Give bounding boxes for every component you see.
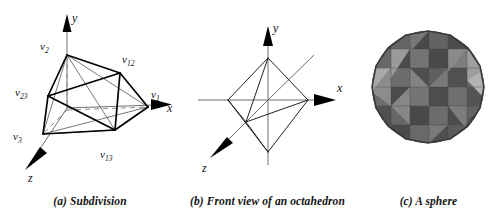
panel-sphere: (c) A sphere bbox=[355, 0, 502, 221]
axis-z bbox=[210, 55, 314, 158]
faceted-sphere-diagram bbox=[355, 0, 502, 200]
caption-panel-a: (a) Subdivision bbox=[0, 195, 180, 207]
axis-label-y: y bbox=[71, 11, 78, 25]
axis-label-x: x bbox=[166, 101, 173, 115]
caption-panel-b: (b) Front view of an octahedron bbox=[180, 195, 355, 207]
vertex-label-v12: v12 bbox=[122, 53, 135, 68]
vertex-label-v23: v23 bbox=[15, 86, 28, 101]
figure-root: v2 v12 v23 v1 v3 v13 y x z (a) Subdivisi… bbox=[0, 0, 502, 221]
axis-y bbox=[263, 26, 273, 165]
vertex-label-v2: v2 bbox=[40, 40, 49, 55]
vertex-label-v3: v3 bbox=[13, 130, 22, 145]
subdivision-diagram: v2 v12 v23 v1 v3 v13 y x z bbox=[0, 0, 180, 200]
panel-subdivision: v2 v12 v23 v1 v3 v13 y x z (a) Subdivisi… bbox=[0, 0, 180, 221]
panel-front-view: y x z (b) Front view of an octahedron bbox=[180, 0, 355, 221]
axis-label-y: y bbox=[272, 21, 279, 35]
axis-label-x: x bbox=[336, 81, 343, 95]
front-view-diagram: y x z bbox=[180, 0, 355, 200]
axis-x bbox=[198, 94, 336, 106]
axis-label-z: z bbox=[27, 171, 33, 185]
axis-label-z: z bbox=[201, 161, 207, 175]
vertex-label-v13: v13 bbox=[100, 148, 113, 163]
caption-panel-c: (c) A sphere bbox=[355, 195, 502, 207]
